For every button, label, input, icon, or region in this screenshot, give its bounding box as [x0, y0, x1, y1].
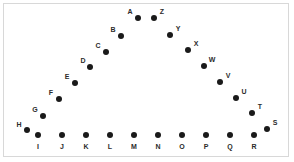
point-marker-icon [251, 132, 257, 138]
point-marker-icon [264, 126, 270, 132]
point-label: J [60, 143, 64, 150]
point-label: Z [160, 8, 164, 15]
point-marker-icon [135, 15, 141, 21]
point-marker-icon [103, 49, 109, 55]
point-marker-icon [72, 80, 78, 86]
point-marker-icon [59, 132, 65, 138]
point-label: B [110, 26, 115, 33]
point-marker-icon [56, 96, 62, 102]
point-label: Q [227, 143, 232, 150]
point-label: V [226, 72, 231, 79]
point-label: A [127, 8, 132, 15]
point-marker-icon [179, 132, 185, 138]
point-marker-icon [155, 132, 161, 138]
point-label: W [209, 56, 216, 63]
point-label: R [251, 143, 256, 150]
point-marker-icon [167, 32, 173, 38]
point-label: O [179, 143, 184, 150]
point-marker-icon [233, 95, 239, 101]
point-marker-icon [87, 64, 93, 70]
point-marker-icon [203, 132, 209, 138]
point-marker-icon [131, 132, 137, 138]
point-label: I [37, 143, 39, 150]
point-marker-icon [151, 15, 157, 21]
point-label: F [49, 89, 53, 96]
point-label: N [155, 143, 160, 150]
point-label: U [241, 88, 246, 95]
point-label: T [258, 103, 262, 110]
point-marker-icon [217, 79, 223, 85]
point-label: S [273, 119, 278, 126]
point-marker-icon [107, 132, 113, 138]
point-label: H [16, 121, 21, 128]
point-marker-icon [185, 47, 191, 53]
point-label: E [65, 73, 70, 80]
point-marker-icon [227, 132, 233, 138]
point-marker-icon [40, 113, 46, 119]
point-marker-icon [249, 110, 255, 116]
point-label: C [95, 42, 100, 49]
point-marker-icon [24, 127, 30, 133]
point-marker-icon [118, 33, 124, 39]
point-label: K [83, 143, 88, 150]
point-label: X [194, 40, 199, 47]
point-label: D [80, 57, 85, 64]
dot-diagram-canvas: ABCDEFGHIJKLMNOPQRSTUVWXYZ [0, 0, 294, 162]
point-label: M [131, 143, 137, 150]
point-label: L [108, 143, 112, 150]
plot-border [3, 3, 289, 157]
point-label: P [204, 143, 209, 150]
point-marker-icon [83, 132, 89, 138]
point-label: Y [176, 25, 181, 32]
point-marker-icon [201, 63, 207, 69]
point-label: G [32, 106, 37, 113]
point-marker-icon [35, 132, 41, 138]
